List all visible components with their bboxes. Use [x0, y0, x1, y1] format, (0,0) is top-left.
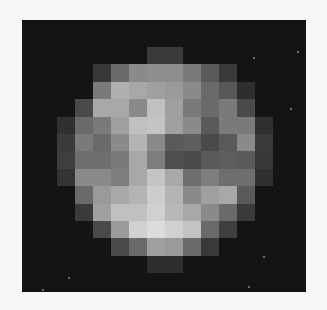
image-pixel [165, 117, 183, 134]
image-pixel [165, 134, 183, 151]
image-pixel [57, 256, 75, 273]
image-pixel [165, 204, 183, 221]
image-frame [22, 20, 306, 292]
image-pixel [201, 134, 219, 151]
image-pixel [111, 99, 129, 116]
image-pixel [237, 256, 255, 273]
image-pixel [147, 117, 165, 134]
image-pixel [237, 169, 255, 186]
image-pixel [111, 64, 129, 81]
image-pixel [147, 99, 165, 116]
image-pixel [129, 47, 147, 64]
image-pixel [165, 47, 183, 64]
image-pixel [147, 134, 165, 151]
image-pixel [201, 117, 219, 134]
image-pixel [147, 238, 165, 255]
image-pixel [57, 99, 75, 116]
image-pixel [183, 221, 201, 238]
image-pixel [75, 169, 93, 186]
image-pixel [255, 82, 273, 99]
image-pixel [57, 117, 75, 134]
image-pixel [57, 204, 75, 221]
image-pixel [201, 256, 219, 273]
image-pixel [201, 169, 219, 186]
image-pixel [93, 151, 111, 168]
image-pixel [111, 238, 129, 255]
image-pixel [255, 99, 273, 116]
image-pixel [255, 169, 273, 186]
image-pixel [165, 238, 183, 255]
image-pixel [147, 82, 165, 99]
image-pixel [111, 151, 129, 168]
image-pixel [255, 186, 273, 203]
image-pixel [165, 186, 183, 203]
image-pixel [93, 64, 111, 81]
image-pixel [111, 47, 129, 64]
image-pixel [147, 47, 165, 64]
image-pixel [219, 151, 237, 168]
image-pixel [183, 82, 201, 99]
image-pixel [219, 256, 237, 273]
image-pixel [93, 117, 111, 134]
image-pixel [219, 204, 237, 221]
image-pixel [237, 204, 255, 221]
image-pixel [183, 64, 201, 81]
noise-speck [248, 286, 250, 288]
image-pixel [111, 117, 129, 134]
image-pixel [57, 186, 75, 203]
image-pixel [183, 256, 201, 273]
image-pixel [201, 151, 219, 168]
image-pixel [93, 99, 111, 116]
image-pixel [147, 169, 165, 186]
image-pixel [129, 256, 147, 273]
image-pixel [129, 99, 147, 116]
noise-speck [253, 57, 255, 59]
image-pixel [183, 186, 201, 203]
planet-pixel-grid [57, 47, 273, 273]
image-pixel [237, 99, 255, 116]
image-pixel [93, 134, 111, 151]
image-pixel [255, 64, 273, 81]
noise-speck [290, 108, 292, 110]
image-pixel [75, 47, 93, 64]
image-pixel [183, 238, 201, 255]
image-pixel [219, 169, 237, 186]
image-pixel [75, 82, 93, 99]
image-pixel [219, 64, 237, 81]
image-pixel [75, 256, 93, 273]
image-pixel [237, 186, 255, 203]
image-pixel [93, 221, 111, 238]
image-pixel [165, 256, 183, 273]
noise-speck [263, 256, 265, 258]
image-pixel [237, 151, 255, 168]
image-pixel [201, 238, 219, 255]
image-pixel [201, 99, 219, 116]
image-pixel [183, 204, 201, 221]
image-pixel [255, 151, 273, 168]
image-pixel [165, 64, 183, 81]
image-pixel [201, 204, 219, 221]
image-pixel [219, 134, 237, 151]
image-pixel [129, 134, 147, 151]
image-pixel [165, 151, 183, 168]
image-pixel [165, 99, 183, 116]
image-pixel [237, 238, 255, 255]
image-pixel [75, 134, 93, 151]
image-pixel [75, 99, 93, 116]
image-pixel [183, 117, 201, 134]
image-pixel [255, 134, 273, 151]
image-pixel [93, 82, 111, 99]
image-pixel [75, 151, 93, 168]
image-pixel [255, 204, 273, 221]
image-pixel [129, 82, 147, 99]
image-pixel [57, 82, 75, 99]
image-pixel [111, 169, 129, 186]
image-pixel [237, 134, 255, 151]
image-pixel [165, 82, 183, 99]
image-pixel [201, 221, 219, 238]
image-pixel [237, 82, 255, 99]
noise-speck [297, 51, 299, 53]
image-pixel [219, 82, 237, 99]
image-pixel [147, 256, 165, 273]
image-pixel [255, 47, 273, 64]
